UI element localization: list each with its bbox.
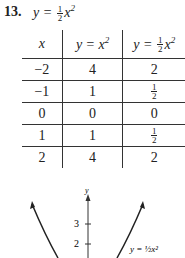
cell-x: 1 <box>22 125 62 147</box>
table-header-row: x y = x2 y = 12x2 <box>22 30 185 59</box>
cell-y2: 2 <box>123 147 185 169</box>
cell-x: 2 <box>22 147 62 169</box>
eq-fraction: 12 <box>57 5 64 22</box>
problem-equation: y = 12x2 <box>33 3 75 22</box>
h3-exp: 2 <box>171 35 176 45</box>
table-row: 2 4 2 <box>22 147 185 169</box>
cell-frac: 12 <box>151 127 158 144</box>
cell-x: −1 <box>22 81 62 103</box>
y-axis-label: y <box>84 186 89 195</box>
table-row: 0 0 0 <box>22 103 185 125</box>
frac-den: 2 <box>151 136 158 144</box>
cell-y2: 0 <box>123 103 185 125</box>
table-row: 1 1 12 <box>22 125 185 147</box>
frac-den: 2 <box>157 45 164 53</box>
cell-x: −2 <box>22 59 62 81</box>
cell-y1: 4 <box>62 59 123 81</box>
curve-label: y = ½x² <box>129 244 158 254</box>
header-y-x2: y = x2 <box>62 30 123 59</box>
cell-y1: 1 <box>62 81 123 103</box>
parabola-graph: y 3 2 y = ½x² <box>0 185 185 258</box>
table-row: −1 1 12 <box>22 81 185 103</box>
cell-x: 0 <box>22 103 62 125</box>
tick-2: 2 <box>74 238 79 249</box>
header-x: x <box>22 30 62 59</box>
h2-exp: 2 <box>105 35 110 45</box>
tick-3: 3 <box>74 218 79 229</box>
cell-y1: 4 <box>62 147 123 169</box>
cell-y1: 1 <box>62 125 123 147</box>
h2-text: y = x <box>76 37 105 52</box>
values-table: x y = x2 y = 12x2 −2 4 2 −1 1 12 0 0 0 1… <box>22 30 185 168</box>
h3-frac: 12 <box>157 36 164 53</box>
frac-den: 2 <box>151 92 158 100</box>
cell-y2: 12 <box>123 125 185 147</box>
eq-exp: 2 <box>70 3 75 13</box>
frac-den: 2 <box>57 14 64 22</box>
cell-y2: 2 <box>123 59 185 81</box>
table-row: −2 4 2 <box>22 59 185 81</box>
cell-y2: 12 <box>123 81 185 103</box>
cell-frac: 12 <box>151 83 158 100</box>
eq-lhs: y = <box>33 5 52 20</box>
problem-number: 13. <box>4 4 22 20</box>
h3-text: y = <box>133 36 152 51</box>
curve-left <box>32 204 58 258</box>
y-axis-arrow-icon <box>86 194 91 201</box>
cell-y1: 0 <box>62 103 123 125</box>
header-y-half-x2: y = 12x2 <box>123 30 185 59</box>
